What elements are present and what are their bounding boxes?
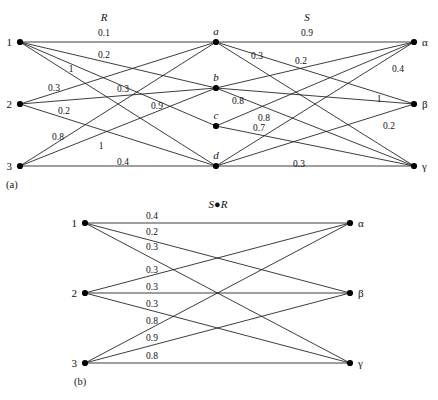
node-label-1: 1 (72, 217, 78, 229)
panel-b-weight-label-2: 0.3 (146, 242, 158, 252)
panel-b-weight-label-8: 0.8 (146, 351, 158, 361)
node-label-beta: β (358, 287, 364, 299)
edge-1-b (20, 42, 216, 88)
panel-a-nodes: 123abcdαβγ (7, 25, 429, 172)
relation-title-S: S (304, 11, 310, 23)
panel-a-weight-label-4: 0.3 (117, 84, 129, 94)
node-c[interactable] (213, 123, 219, 129)
node-label-gamma: γ (421, 160, 427, 172)
node-label-alpha: α (422, 36, 428, 48)
node-label-c: c (214, 109, 219, 121)
node-label-b: b (213, 71, 219, 83)
node-1[interactable] (17, 39, 23, 45)
node-alpha[interactable] (347, 220, 353, 226)
panel-b-weight-label-1: 0.2 (146, 227, 158, 237)
panel-a-weight-label-18: 0.2 (383, 121, 395, 131)
node-label-d: d (213, 149, 219, 161)
node-2[interactable] (82, 290, 88, 296)
node-a[interactable] (213, 39, 219, 45)
node-label-gamma: γ (357, 357, 363, 369)
panel-a-weight-label-17: 0.7 (253, 123, 265, 133)
panel-a-weight-label-15: 1 (377, 94, 382, 104)
panel-caption-b: (b) (74, 376, 87, 388)
panel-b-weight-label-5: 0.3 (146, 299, 158, 309)
node-label-3: 3 (7, 160, 13, 172)
node-label-2: 2 (72, 287, 78, 299)
panel-a-weight-label-14: 0.8 (232, 96, 244, 106)
edge-c-gamma (216, 126, 414, 166)
node-3[interactable] (17, 163, 23, 169)
relation-composition-diagram: 123abcdαβγ 0.10.210.30.30.90.20.810.40.9… (0, 0, 438, 400)
panel-a-weight-label-1: 0.2 (98, 50, 110, 60)
panel-a-weight-label-16: 0.8 (258, 113, 270, 123)
panel-a-weight-label-12: 0.2 (295, 56, 307, 66)
panel-a-weight-label-19: 0.3 (293, 159, 305, 169)
node-label-alpha: α (358, 217, 364, 229)
node-d[interactable] (213, 163, 219, 169)
panel-b-weight-label-3: 0.3 (146, 265, 158, 275)
node-label-1: 1 (7, 36, 13, 48)
node-label-2: 2 (7, 98, 13, 110)
panel-a-weight-label-8: 1 (99, 141, 104, 151)
node-b[interactable] (213, 85, 219, 91)
edge-3-b (20, 88, 216, 166)
node-3[interactable] (82, 360, 88, 366)
edge-a-beta (216, 42, 414, 104)
panel-a-weight-label-7: 0.8 (52, 132, 64, 142)
panel-b-edges (85, 223, 350, 363)
panel-a-weight-label-2: 1 (69, 64, 74, 74)
panel-a-weight-label-3: 0.3 (48, 83, 60, 93)
panel-a-weight-label-6: 0.2 (58, 106, 70, 116)
edge-2-a (20, 42, 216, 104)
panel-b-weight-label-7: 0.9 (146, 333, 158, 343)
panel-b-weight-label-4: 0.3 (146, 282, 158, 292)
node-2[interactable] (17, 101, 23, 107)
node-gamma[interactable] (347, 360, 353, 366)
panel-a-weight-label-11: 0.3 (251, 51, 263, 61)
panel-b-weight-labels: 0.40.20.30.30.30.30.80.90.8 (146, 211, 158, 361)
node-beta[interactable] (347, 290, 353, 296)
panel-a-weight-label-5: 0.9 (151, 101, 163, 111)
panel-b-weight-label-0: 0.4 (146, 211, 158, 221)
node-label-a: a (213, 25, 219, 37)
edge-b-beta (216, 88, 414, 104)
relation-title-R: R (100, 11, 108, 23)
figure-canvas: 123abcdαβγ 0.10.210.30.30.90.20.810.40.9… (0, 0, 438, 400)
node-label-beta: β (422, 98, 428, 110)
panel-a-weight-label-10: 0.9 (301, 28, 313, 38)
panel-a-weight-label-0: 0.1 (98, 28, 110, 38)
node-alpha[interactable] (411, 39, 417, 45)
panel-a-edges (20, 42, 414, 166)
panel-b-weight-label-6: 0.8 (146, 316, 158, 326)
edge-b-alpha (216, 42, 414, 88)
composition-title: S●R (209, 198, 228, 210)
node-gamma[interactable] (411, 163, 417, 169)
node-label-3: 3 (72, 357, 78, 369)
node-1[interactable] (82, 220, 88, 226)
panel-a-weight-label-13: 0.4 (392, 64, 404, 74)
node-beta[interactable] (411, 101, 417, 107)
panel-a-weight-label-9: 0.4 (117, 157, 129, 167)
panel-caption-a: (a) (6, 179, 18, 191)
